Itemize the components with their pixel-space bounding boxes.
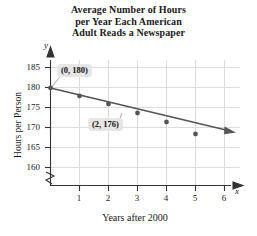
y-tick-marks	[45, 68, 50, 168]
data-point	[164, 120, 169, 125]
data-point	[193, 132, 198, 137]
data-point	[48, 86, 53, 91]
data-label-callout: (0, 180)	[57, 64, 92, 77]
plot-area	[0, 0, 257, 236]
data-point	[77, 94, 82, 99]
data-label-callout: (2, 176)	[88, 118, 123, 131]
data-point	[106, 102, 111, 107]
y-axis-break-icon	[46, 172, 54, 184]
horizontal-gridlines	[50, 68, 240, 168]
data-point	[135, 111, 140, 116]
callout-leader-lines	[51, 74, 122, 124]
chart-figure: Average Number of Hours per Year Each Am…	[0, 0, 257, 236]
